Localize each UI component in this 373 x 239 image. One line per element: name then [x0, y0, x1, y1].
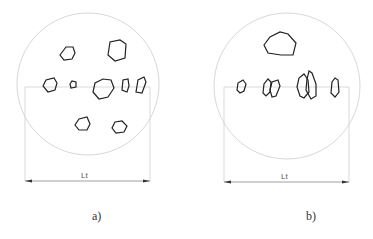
figure-canvas: [0, 0, 373, 239]
dimension-label-a: Lt: [81, 171, 88, 180]
reference-frame-a: [25, 87, 150, 181]
particles-a: [43, 40, 146, 133]
caption-b: b): [306, 209, 316, 224]
caption-a: a): [92, 209, 101, 224]
particles-b: [237, 32, 339, 99]
dimension-label-b: Lt: [281, 172, 288, 181]
reference-frame-b: [224, 87, 349, 182]
panel-a: [17, 13, 159, 183]
panel-b: [214, 13, 360, 184]
